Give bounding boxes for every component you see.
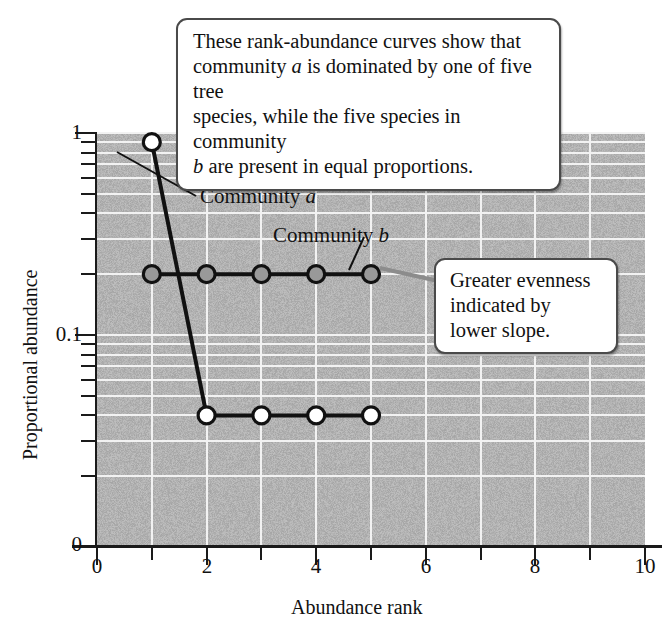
callout-evenness-text: Greater evennessindicated bylower slope. [450, 268, 604, 343]
callout-evenness-line1: Greater evenness [450, 269, 591, 291]
callout-main-line1: These rank-abundance curves show that [193, 30, 521, 52]
rank-abundance-figure: 1 0.1 0 0 2 4 6 8 10 Proportional abunda… [0, 0, 662, 631]
callout-main-text: These rank-abundance curves show thatcom… [193, 29, 546, 179]
curve-label-community-b-italic: b [379, 223, 390, 247]
callout-main-line2-italic: a [292, 55, 302, 77]
callout-evenness: Greater evennessindicated bylower slope. [434, 258, 618, 354]
callout-evenness-line2: indicated by [450, 294, 551, 316]
callout-evenness-line3: lower slope. [450, 319, 550, 341]
curve-label-community-b-text: Community [273, 223, 379, 247]
callout-main-line3: species, while the five species in commu… [193, 105, 461, 152]
callout-main-line4-post: are present in equal proportions. [203, 155, 473, 177]
leader-line-evenness [380, 268, 438, 281]
curve-label-community-b: Community b [273, 225, 389, 246]
callout-main-description: These rank-abundance curves show thatcom… [176, 18, 561, 191]
callout-main-line4-italic: b [193, 155, 203, 177]
callout-main-line2-pre: community [193, 55, 292, 77]
